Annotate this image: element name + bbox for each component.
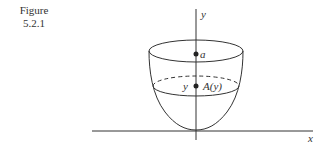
x-axis-label: x: [307, 132, 313, 144]
bowl-diagram: y x a y A(y): [0, 0, 328, 154]
point-a-dot: [194, 52, 199, 57]
height-y-label: y: [182, 80, 188, 92]
point-Ay-dot: [194, 84, 199, 89]
y-axis-label: y: [200, 8, 206, 20]
area-Ay-label: A(y): [202, 80, 222, 93]
point-a-label: a: [200, 48, 206, 60]
